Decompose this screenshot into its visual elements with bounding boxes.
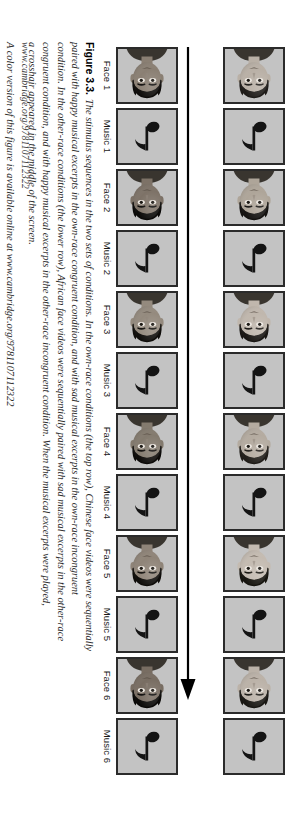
face-icon bbox=[118, 415, 176, 468]
panel-label: Face 4 bbox=[102, 413, 113, 470]
face-stimulus-panel bbox=[223, 169, 285, 226]
face-icon bbox=[225, 293, 283, 346]
panel-label: Face 2 bbox=[102, 169, 113, 226]
music-stimulus-panel bbox=[116, 352, 178, 409]
face-icon bbox=[225, 171, 283, 224]
music-note-icon bbox=[118, 598, 176, 651]
face-icon bbox=[225, 49, 283, 102]
face-stimulus-panel bbox=[116, 535, 178, 592]
caption-line: condition. In the other-race conditions … bbox=[53, 42, 67, 782]
face-icon bbox=[225, 537, 283, 590]
music-stimulus-panel bbox=[223, 718, 285, 775]
face-stimulus-panel bbox=[116, 657, 178, 714]
panel-label: Face 6 bbox=[102, 657, 113, 714]
face-stimulus-panel bbox=[116, 291, 178, 348]
music-note-icon bbox=[225, 232, 283, 285]
caption-color-note: A color version of this figure is availa… bbox=[3, 42, 17, 782]
music-stimulus-panel bbox=[116, 718, 178, 775]
caption-line: Figure 3.3.The stimulus sequences in the… bbox=[82, 42, 97, 782]
face-icon bbox=[225, 415, 283, 468]
panel-label: Music 5 bbox=[102, 596, 113, 653]
music-stimulus-panel bbox=[116, 474, 178, 531]
panel-label: Music 2 bbox=[102, 230, 113, 287]
figure-number: Figure 3.3. bbox=[84, 42, 96, 95]
face-stimulus-panel bbox=[223, 413, 285, 470]
face-icon bbox=[118, 659, 176, 712]
music-note-icon bbox=[118, 354, 176, 407]
caption-line: paired with happy musical excerpts in th… bbox=[68, 42, 82, 782]
panel-label: Face 5 bbox=[102, 535, 113, 592]
panel-label: Face 3 bbox=[102, 291, 113, 348]
music-note-icon bbox=[118, 110, 176, 163]
music-note-icon bbox=[225, 476, 283, 529]
face-icon bbox=[118, 293, 176, 346]
face-stimulus-panel bbox=[223, 47, 285, 104]
face-stimulus-panel bbox=[223, 291, 285, 348]
face-stimulus-panel bbox=[223, 535, 285, 592]
music-note-icon bbox=[118, 476, 176, 529]
face-icon bbox=[118, 171, 176, 224]
figure-illustration: Face 1Music 1Face 2Music 2Face 3Music 3F… bbox=[103, 0, 293, 814]
music-stimulus-panel bbox=[116, 108, 178, 165]
face-stimulus-panel bbox=[116, 47, 178, 104]
face-icon bbox=[225, 659, 283, 712]
music-note-icon bbox=[225, 720, 283, 773]
panel-label: Music 4 bbox=[102, 474, 113, 531]
panel-label-row: Face 1Music 1Face 2Music 2Face 3Music 3F… bbox=[102, 47, 113, 775]
panel-label: Music 3 bbox=[102, 352, 113, 409]
music-stimulus-panel bbox=[223, 596, 285, 653]
face-icon bbox=[118, 49, 176, 102]
panel-label: Face 1 bbox=[102, 47, 113, 104]
face-stimulus-panel bbox=[223, 657, 285, 714]
music-stimulus-panel bbox=[116, 596, 178, 653]
other-race-panel-row bbox=[116, 47, 178, 775]
panel-label: Music 1 bbox=[102, 108, 113, 165]
face-icon bbox=[118, 537, 176, 590]
music-stimulus-panel bbox=[223, 474, 285, 531]
face-stimulus-panel bbox=[116, 413, 178, 470]
caption-line: congruent condition, and with happy musi… bbox=[39, 42, 53, 782]
footer-url: www.cambridge.org/9781107112322 bbox=[20, 42, 31, 189]
music-stimulus-panel bbox=[223, 352, 285, 409]
music-stimulus-panel bbox=[223, 108, 285, 165]
caption-text: The stimulus sequences in the two sets o… bbox=[84, 99, 95, 651]
face-stimulus-panel bbox=[116, 169, 178, 226]
music-note-icon bbox=[225, 354, 283, 407]
music-stimulus-panel bbox=[223, 230, 285, 287]
sequence-direction-arrow bbox=[180, 45, 196, 700]
music-stimulus-panel bbox=[116, 230, 178, 287]
panel-label: Music 6 bbox=[102, 718, 113, 775]
rotated-page-canvas: Face 1Music 1Face 2Music 2Face 3Music 3F… bbox=[0, 0, 293, 814]
figure-caption: Figure 3.3.The stimulus sequences in the… bbox=[3, 42, 97, 782]
music-note-icon bbox=[118, 232, 176, 285]
own-race-panel-row bbox=[223, 47, 285, 775]
music-note-icon bbox=[225, 598, 283, 651]
music-note-icon bbox=[118, 720, 176, 773]
music-note-icon bbox=[225, 110, 283, 163]
